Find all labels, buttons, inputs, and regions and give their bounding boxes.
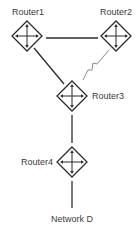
router2-icon [101, 21, 131, 51]
router1-icon [12, 21, 42, 51]
router3-icon [57, 81, 87, 111]
router1-label: Router1 [12, 7, 44, 17]
link-router1-router3 [34, 48, 64, 84]
network-diagram [0, 0, 139, 230]
router3-label: Router3 [92, 91, 124, 101]
serial-link-router2-router3 [83, 50, 109, 80]
router4-icon [57, 147, 87, 177]
lightning-bolt-icon [83, 50, 109, 80]
network-d-label: Network D [51, 214, 93, 224]
router4-label: Router4 [21, 157, 53, 167]
router2-label: Router2 [100, 7, 132, 17]
